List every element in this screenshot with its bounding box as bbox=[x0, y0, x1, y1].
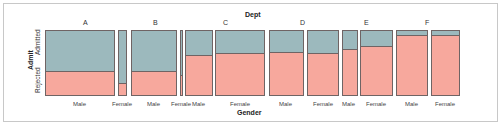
admitted-segment bbox=[181, 31, 182, 75]
dept-label-e: E bbox=[364, 19, 369, 26]
admit-axis-title: Admit bbox=[27, 50, 34, 70]
dept-label-f: F bbox=[425, 19, 429, 26]
mosaic-tile-c-male bbox=[185, 30, 213, 96]
gender-label-e-male: Male bbox=[342, 101, 355, 107]
mosaic-tile-b-male bbox=[131, 30, 177, 96]
gender-label-c-female: Female bbox=[230, 101, 250, 107]
dept-axis-title: Dept bbox=[245, 11, 261, 18]
dept-label-c: C bbox=[223, 19, 228, 26]
gender-axis-title: Gender bbox=[237, 109, 262, 116]
gender-label-b-male: Male bbox=[147, 101, 160, 107]
admitted-segment bbox=[186, 31, 212, 55]
gender-label-b-female: Female bbox=[171, 101, 191, 107]
dept-label-a: A bbox=[83, 19, 88, 26]
gender-label-e-female: Female bbox=[366, 101, 386, 107]
rejected-segment bbox=[216, 53, 264, 95]
dept-label-b: B bbox=[153, 19, 158, 26]
rejected-segment bbox=[186, 55, 212, 95]
gender-label-f-male: Male bbox=[405, 101, 418, 107]
rejected-segment bbox=[270, 52, 303, 95]
admitted-segment bbox=[132, 31, 176, 71]
y-level-rejected: Rejected bbox=[34, 67, 41, 93]
rejected-segment bbox=[308, 53, 338, 95]
admitted-segment bbox=[270, 31, 303, 52]
gender-label-d-female: Female bbox=[313, 101, 333, 107]
mosaic-tile-b-female bbox=[180, 30, 183, 96]
admitted-segment bbox=[361, 31, 392, 46]
admitted-segment bbox=[46, 31, 114, 71]
mosaic-tile-a-female bbox=[118, 30, 127, 96]
mosaic-tile-e-female bbox=[360, 30, 393, 96]
admitted-segment bbox=[308, 31, 338, 53]
rejected-segment bbox=[361, 46, 392, 95]
rejected-segment bbox=[397, 35, 427, 95]
admitted-segment bbox=[343, 31, 357, 49]
admitted-segment bbox=[119, 31, 126, 83]
mosaic-tile-c-female bbox=[215, 30, 265, 96]
gender-label-f-female: Female bbox=[435, 101, 455, 107]
dept-label-d: D bbox=[300, 19, 305, 26]
gender-label-d-male: Male bbox=[279, 101, 292, 107]
rejected-segment bbox=[119, 83, 126, 95]
gender-label-a-female: Female bbox=[112, 101, 132, 107]
rejected-segment bbox=[343, 49, 357, 95]
mosaic-tile-f-female bbox=[431, 30, 460, 96]
y-level-admitted: Admitted bbox=[34, 29, 41, 55]
rejected-segment bbox=[132, 71, 176, 95]
mosaic-tile-f-male bbox=[396, 30, 428, 96]
gender-label-a-male: Male bbox=[73, 101, 86, 107]
mosaic-tile-a-male bbox=[45, 30, 115, 96]
mosaic-tile-e-male bbox=[342, 30, 358, 96]
rejected-segment bbox=[46, 71, 114, 95]
mosaic-tile-d-male bbox=[269, 30, 304, 96]
rejected-segment bbox=[181, 75, 182, 95]
rejected-segment bbox=[432, 35, 459, 95]
gender-label-c-male: Male bbox=[192, 101, 205, 107]
mosaic-tile-d-female bbox=[307, 30, 339, 96]
admitted-segment bbox=[216, 31, 264, 53]
